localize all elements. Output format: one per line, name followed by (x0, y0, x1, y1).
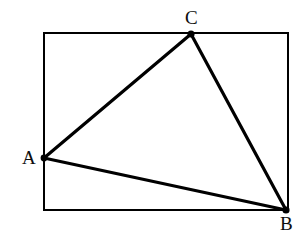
vertex-label-b: B (280, 214, 293, 233)
vertex-label-a: A (22, 148, 36, 167)
geometry-figure: A B C (0, 0, 304, 238)
figure-canvas (0, 0, 304, 238)
vertex-dot-c (187, 30, 194, 37)
vertex-label-c: C (185, 8, 198, 27)
figure-background (0, 0, 304, 238)
vertex-dot-a (41, 155, 48, 162)
